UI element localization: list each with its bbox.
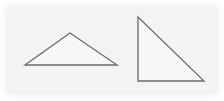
triangles-figure — [0, 0, 224, 101]
right-triangle — [138, 17, 204, 81]
obtuse-triangle — [25, 33, 117, 65]
